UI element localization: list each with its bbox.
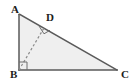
vertex-label-a: A [11, 3, 19, 15]
vertex-label-b: B [10, 68, 18, 80]
triangle-diagram-svg: A D B C [0, 0, 133, 82]
geometry-figure: A D B C [0, 0, 133, 82]
vertex-label-c: C [121, 68, 129, 80]
vertex-label-d: D [46, 11, 54, 23]
